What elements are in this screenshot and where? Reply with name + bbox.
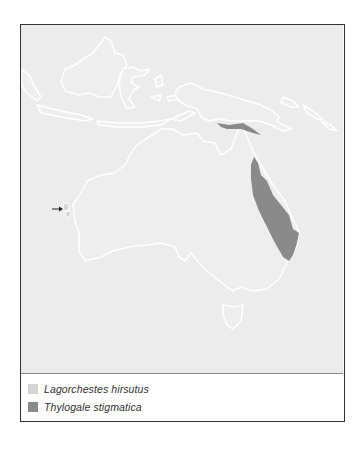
legend-label: Thylogale stigmatica	[44, 401, 142, 413]
legend-item-lagorchestes: Lagorchestes hirsutus	[28, 383, 149, 395]
distribution-map	[21, 25, 343, 374]
swatch-light-gray-icon	[28, 384, 38, 394]
map-graphic	[21, 25, 343, 373]
tasmania	[223, 305, 243, 329]
borneo-landmass	[61, 37, 127, 97]
map-figure-frame: Lagorchestes hirsutus Thylogale stigmati…	[20, 24, 345, 422]
legend-item-thylogale: Thylogale stigmatica	[28, 401, 142, 413]
sumatra-landmass	[21, 69, 41, 101]
new-guinea-landmass	[175, 83, 291, 131]
swatch-dark-gray-icon	[28, 402, 38, 412]
arrow-icon	[52, 207, 63, 212]
timor-island	[171, 111, 195, 121]
lesser-sunda-islands	[97, 119, 171, 127]
sulawesi-landmass	[119, 67, 149, 109]
lagorchestes-range	[63, 203, 71, 217]
map-legend: Lagorchestes hirsutus Thylogale stigmati…	[21, 374, 343, 421]
legend-label: Lagorchestes hirsutus	[44, 383, 149, 395]
java-landmass	[37, 105, 93, 121]
